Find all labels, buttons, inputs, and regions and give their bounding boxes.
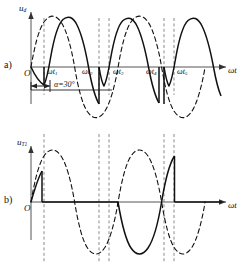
- panel-a-origin-label: O: [24, 69, 31, 78]
- waveform-figure: a) ud O ωt ωt1 ωt2 ωt3 ωt4 ωt5 α=30° b) …: [0, 0, 251, 271]
- panel-b-x-axis-label: ωt: [228, 201, 237, 210]
- tick-2-sub: 2: [90, 71, 92, 76]
- panel-b-group: [28, 134, 226, 262]
- panel-b-origin-label: O: [24, 204, 31, 213]
- waveform-svg: [0, 0, 251, 271]
- panel-b-axes: [28, 146, 226, 240]
- panel-a-x-axis-label: ωt: [228, 66, 237, 75]
- tick-label-wt2: ωt2: [82, 68, 92, 77]
- tick-1-sub: 1: [55, 71, 57, 76]
- tick-1-base: ωt: [47, 67, 55, 76]
- tick-label-wt5: ωt5: [177, 68, 187, 77]
- panel-b-tag: b): [4, 195, 12, 205]
- panel-a-ud-curve: [31, 17, 221, 104]
- panel-a-y-axis-sub: d: [24, 7, 27, 13]
- panel-b-y-axis-label: uT1: [17, 138, 27, 148]
- panel-b-droplines: [44, 134, 174, 262]
- tick-label-wt4: ωt4: [146, 68, 156, 77]
- tick-3-sub: 3: [121, 71, 123, 76]
- panel-b-y-axis-sub: T1: [22, 141, 28, 147]
- tick-label-wt1: ωt1: [47, 68, 57, 77]
- tick-5-sub: 5: [185, 71, 187, 76]
- tick-4-base: ωt: [146, 67, 154, 76]
- panel-a-y-axis-label: ud: [19, 4, 26, 14]
- panel-b-ut1-curve: [31, 156, 222, 254]
- panel-a-tag: a): [4, 60, 12, 70]
- tick-4-sub: 4: [154, 71, 156, 76]
- panel-a-group: [28, 12, 226, 118]
- tick-label-wt3: ωt3: [113, 68, 123, 77]
- alpha-annotation: α=30°: [54, 81, 75, 89]
- tick-3-base: ωt: [113, 67, 121, 76]
- tick-5-base: ωt: [177, 67, 185, 76]
- tick-2-base: ωt: [82, 67, 90, 76]
